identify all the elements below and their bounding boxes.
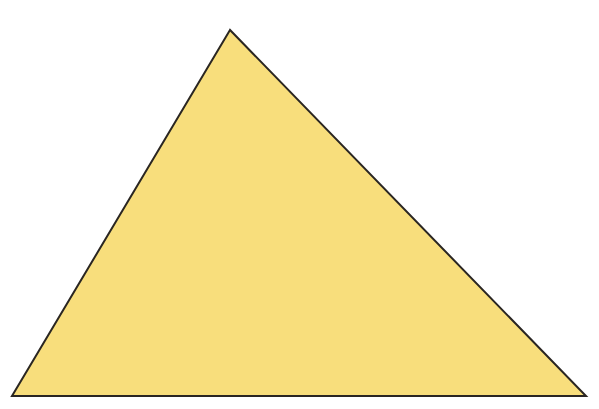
diagram-canvas (0, 0, 599, 409)
